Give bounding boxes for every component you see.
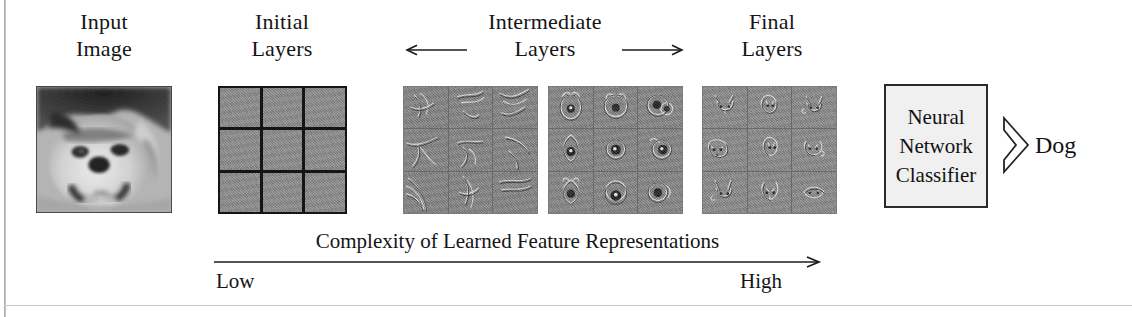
feature-map-cell	[493, 87, 537, 128]
feature-map-cell	[220, 130, 260, 169]
input-image-thumbnail	[36, 86, 172, 213]
feature-map-grid-intermediate-late	[548, 86, 683, 214]
column-label-line2: Layers	[218, 35, 346, 62]
feature-map-cell	[220, 88, 260, 127]
feature-map-cell	[549, 87, 593, 128]
column-label-line1: Input	[36, 8, 172, 35]
feature-map-cell	[449, 129, 493, 170]
arrow-left-icon	[404, 44, 468, 56]
classifier-label-line2: Network	[899, 132, 972, 161]
complexity-axis-high-label: High	[740, 268, 782, 294]
classifier-label-line1: Neural	[907, 103, 964, 132]
feature-map-cell	[594, 129, 638, 170]
feature-map-cell	[493, 172, 537, 213]
feature-map-cell	[703, 129, 747, 170]
feature-map-cell	[748, 87, 792, 128]
feature-map-cell	[263, 173, 303, 212]
column-label-line1: Initial	[218, 8, 346, 35]
feature-map-cell	[449, 87, 493, 128]
column-label-line2: Layers	[702, 35, 842, 62]
column-label-initial-layers: Initial Layers	[218, 8, 346, 62]
feature-map-cell	[263, 88, 303, 127]
feature-map-cell	[305, 88, 345, 127]
feature-map-cell	[703, 172, 747, 213]
feature-map-cell	[404, 172, 448, 213]
feature-map-cell	[792, 172, 836, 213]
output-class-label: Dog	[1035, 130, 1076, 160]
feature-map-grid-initial-layers	[218, 86, 347, 214]
feature-map-cell	[594, 87, 638, 128]
feature-map-cell	[404, 129, 448, 170]
column-label-line1: Intermediate	[405, 8, 685, 35]
feature-map-cell	[305, 130, 345, 169]
page-edge-line	[4, 0, 6, 317]
feature-map-cell	[493, 129, 537, 170]
column-label-line1: Final	[702, 8, 842, 35]
feature-map-cell	[220, 173, 260, 212]
feature-map-cell	[638, 172, 682, 213]
feature-map-grid-intermediate-early	[403, 86, 538, 214]
complexity-axis-low-label: Low	[216, 268, 255, 294]
complexity-axis-caption: Complexity of Learned Feature Representa…	[215, 228, 820, 254]
feature-map-cell	[638, 129, 682, 170]
column-label-line2: Image	[36, 35, 172, 62]
classifier-label-line3: Classifier	[896, 161, 976, 190]
feature-map-cell	[792, 129, 836, 170]
feature-map-cell	[638, 87, 682, 128]
neural-network-classifier-box: Neural Network Classifier	[884, 84, 988, 208]
chevron-right-icon	[1002, 116, 1030, 174]
column-label-final-layers: Final Layers	[702, 8, 842, 62]
feature-map-cell	[549, 172, 593, 213]
feature-map-cell	[792, 87, 836, 128]
column-label-input-image: Input Image	[36, 8, 172, 62]
page-bottom-rule	[4, 305, 1132, 306]
feature-map-cell	[748, 129, 792, 170]
feature-map-cell	[404, 87, 448, 128]
feature-map-cell	[263, 130, 303, 169]
feature-map-cell	[549, 129, 593, 170]
feature-map-grid-final-layers	[702, 86, 837, 214]
feature-map-cell	[703, 87, 747, 128]
arrow-right-icon	[621, 44, 685, 56]
feature-map-cell	[305, 173, 345, 212]
complexity-axis-arrow-icon	[213, 256, 825, 272]
feature-map-cell	[594, 172, 638, 213]
feature-map-cell	[449, 172, 493, 213]
feature-map-cell	[748, 172, 792, 213]
